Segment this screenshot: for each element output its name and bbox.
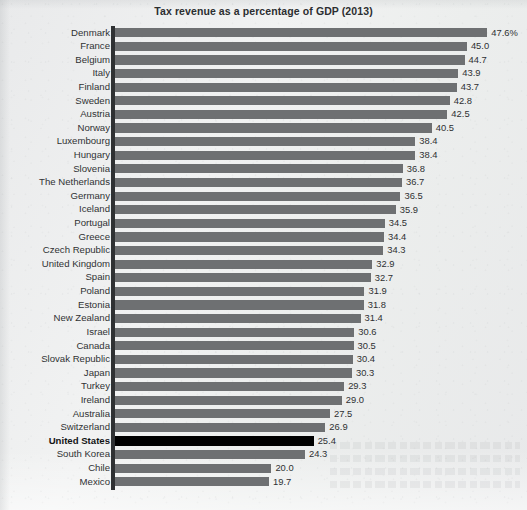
category-label: Italy bbox=[0, 67, 110, 79]
bar-value-label: 38.4 bbox=[419, 135, 437, 147]
bar-row: Spain32.7 bbox=[0, 271, 527, 285]
bar-row: Poland31.9 bbox=[0, 285, 527, 299]
bar bbox=[115, 192, 400, 201]
bar-row: Slovenia36.8 bbox=[0, 162, 527, 176]
category-label: Greece bbox=[0, 231, 110, 243]
bar bbox=[115, 246, 383, 255]
bar-value-label: 31.4 bbox=[365, 312, 383, 324]
bar-value-label: 30.4 bbox=[357, 353, 375, 365]
bar-row: Portugal34.5 bbox=[0, 217, 527, 231]
category-label: Poland bbox=[0, 285, 110, 297]
bar-row: Turkey29.3 bbox=[0, 380, 527, 394]
bar bbox=[115, 219, 385, 228]
bar bbox=[115, 409, 330, 418]
bar bbox=[115, 423, 325, 432]
bar-row: Belgium44.7 bbox=[0, 53, 527, 67]
bar bbox=[115, 450, 305, 459]
bar bbox=[115, 232, 384, 241]
category-label: Austria bbox=[0, 108, 110, 120]
category-label: Ireland bbox=[0, 394, 110, 406]
bar bbox=[115, 382, 344, 391]
bar bbox=[115, 28, 487, 37]
category-label: Sweden bbox=[0, 95, 110, 107]
bar-row: Norway40.5 bbox=[0, 121, 527, 135]
bar-value-label: 24.3 bbox=[309, 448, 327, 460]
bar-chart: Tax revenue as a percentage of GDP (2013… bbox=[0, 0, 527, 510]
category-label: Finland bbox=[0, 81, 110, 93]
bar bbox=[115, 151, 415, 160]
bar-value-label: 45.0 bbox=[471, 40, 489, 52]
bar-value-label: 44.7 bbox=[469, 54, 487, 66]
category-label: Norway bbox=[0, 122, 110, 134]
bar-row: Sweden42.8 bbox=[0, 94, 527, 108]
bar-value-label: 34.5 bbox=[389, 217, 407, 229]
bar-value-label: 29.3 bbox=[348, 380, 366, 392]
bar-row: United Kingdom32.9 bbox=[0, 257, 527, 271]
bar-value-label: 36.8 bbox=[407, 163, 425, 175]
bar bbox=[115, 55, 465, 64]
category-label: Canada bbox=[0, 340, 110, 352]
category-label: South Korea bbox=[0, 448, 110, 460]
bar bbox=[115, 123, 432, 132]
category-label: Czech Republic bbox=[0, 244, 110, 256]
bar-value-label: 31.9 bbox=[368, 285, 386, 297]
bar bbox=[115, 464, 271, 473]
bar-highlighted bbox=[115, 436, 314, 445]
bar-row: New Zealand31.4 bbox=[0, 312, 527, 326]
bar-value-label: 34.3 bbox=[387, 244, 405, 256]
category-axis-line bbox=[111, 26, 115, 490]
category-label: Portugal bbox=[0, 217, 110, 229]
bar-row: Italy43.9 bbox=[0, 67, 527, 81]
category-label: Japan bbox=[0, 367, 110, 379]
category-label: Estonia bbox=[0, 299, 110, 311]
bar bbox=[115, 205, 396, 214]
bar bbox=[115, 477, 269, 486]
plot-area: Denmark47.6%France45.0Belgium44.7Italy43… bbox=[0, 26, 527, 489]
bar-row: Estonia31.8 bbox=[0, 298, 527, 312]
chart-title: Tax revenue as a percentage of GDP (2013… bbox=[0, 5, 527, 17]
bar-value-label: 42.8 bbox=[454, 95, 472, 107]
bar-row: Australia27.5 bbox=[0, 407, 527, 421]
bar bbox=[115, 314, 361, 323]
bar-row: Greece34.4 bbox=[0, 230, 527, 244]
bar-value-label: 30.5 bbox=[358, 340, 376, 352]
category-label: Belgium bbox=[0, 54, 110, 66]
bar-value-label: 40.5 bbox=[436, 122, 454, 134]
bar bbox=[115, 178, 402, 187]
bar-value-label: 42.5 bbox=[451, 108, 469, 120]
bar bbox=[115, 69, 458, 78]
bar-value-label: 43.9 bbox=[462, 67, 480, 79]
bar-value-label: 47.6% bbox=[491, 27, 518, 39]
bar-row: Mexico19.7 bbox=[0, 475, 527, 489]
category-label: United States bbox=[0, 435, 110, 447]
bar-value-label: 36.7 bbox=[406, 176, 424, 188]
bar bbox=[115, 96, 450, 105]
category-label: United Kingdom bbox=[0, 258, 110, 270]
category-label: Iceland bbox=[0, 203, 110, 215]
bar-row: Czech Republic34.3 bbox=[0, 244, 527, 258]
category-label: France bbox=[0, 40, 110, 52]
bar-row: Luxembourg38.4 bbox=[0, 135, 527, 149]
bar-value-label: 30.6 bbox=[358, 326, 376, 338]
bar-row: Ireland29.0 bbox=[0, 393, 527, 407]
bar-value-label: 20.0 bbox=[275, 462, 293, 474]
bar bbox=[115, 328, 354, 337]
category-label: Spain bbox=[0, 271, 110, 283]
category-label: The Netherlands bbox=[0, 176, 110, 188]
bar-value-label: 35.9 bbox=[400, 204, 418, 216]
bar-row: South Korea24.3 bbox=[0, 448, 527, 462]
category-label: Switzerland bbox=[0, 421, 110, 433]
bar bbox=[115, 300, 364, 309]
bar-row: France45.0 bbox=[0, 40, 527, 54]
bar-value-label: 29.0 bbox=[346, 394, 364, 406]
category-label: Denmark bbox=[0, 27, 110, 39]
bar-row: Hungary38.4 bbox=[0, 148, 527, 162]
category-label: New Zealand bbox=[0, 312, 110, 324]
category-label: Slovenia bbox=[0, 163, 110, 175]
category-label: Chile bbox=[0, 462, 110, 474]
bar-row: Japan30.3 bbox=[0, 366, 527, 380]
bar bbox=[115, 396, 342, 405]
bar-row: Slovak Republic30.4 bbox=[0, 353, 527, 367]
category-label: Turkey bbox=[0, 380, 110, 392]
bar-row: Austria42.5 bbox=[0, 108, 527, 122]
